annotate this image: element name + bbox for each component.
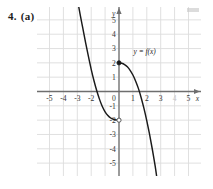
svg-text:y = f(x): y = f(x) <box>133 47 157 56</box>
svg-text:-2: -2 <box>88 94 95 103</box>
svg-text:0: 0 <box>112 94 116 103</box>
svg-text:4: 4 <box>173 94 177 103</box>
problem-label: 4.(a) <box>8 10 35 22</box>
svg-text:3: 3 <box>159 94 163 103</box>
coordinate-graph: -5-4-3-21234554321-1-2-3-4-50xyy = f(x) <box>37 7 201 176</box>
svg-text:-3: -3 <box>74 94 81 103</box>
problem-part: (a) <box>21 10 35 22</box>
svg-text:2: 2 <box>145 94 149 103</box>
svg-text:-1: -1 <box>109 102 116 111</box>
svg-text:-4: -4 <box>60 94 67 103</box>
svg-text:-3: -3 <box>109 130 116 139</box>
figure-root: 4.(a) -5-4-3-21234554321-1-2-3-4-50xyy =… <box>0 0 213 189</box>
problem-number: 4. <box>8 10 17 22</box>
svg-text:-5: -5 <box>46 94 53 103</box>
svg-text:1: 1 <box>131 94 135 103</box>
svg-text:x: x <box>195 94 200 103</box>
svg-text:y: y <box>111 9 116 18</box>
svg-text:4: 4 <box>112 30 116 39</box>
svg-text:-4: -4 <box>109 145 116 154</box>
svg-text:-5: -5 <box>109 159 116 168</box>
scan-artifact <box>187 8 199 12</box>
svg-text:2: 2 <box>112 59 116 68</box>
svg-text:1: 1 <box>112 73 116 82</box>
graph-panel: -5-4-3-21234554321-1-2-3-4-50xyy = f(x) <box>37 7 201 176</box>
svg-text:3: 3 <box>112 44 116 53</box>
svg-text:5: 5 <box>187 94 191 103</box>
